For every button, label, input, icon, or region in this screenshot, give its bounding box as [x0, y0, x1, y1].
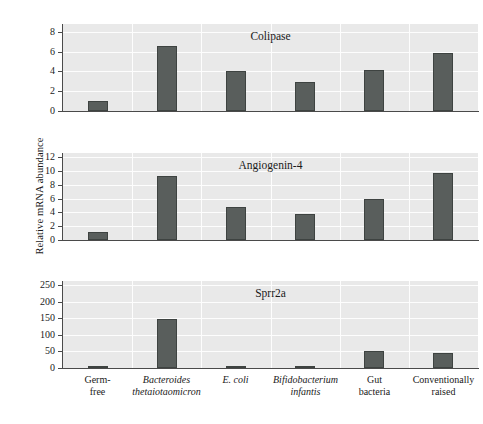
category-label-line: thetaiotaomicron [124, 386, 209, 398]
y-axis-tick [58, 318, 62, 319]
category-label-line: raised [401, 386, 483, 398]
panel-title: Sprr2a [63, 287, 478, 300]
category-label-line: Conventionally [401, 374, 483, 386]
y-axis-tick [58, 285, 62, 286]
x-axis-category-label: Conventionallyraised [401, 374, 483, 397]
y-axis-tick-label: 150 [23, 313, 55, 323]
figure-bar-chart-panels: Relative mRNA abundance 02468Colipase 02… [0, 0, 483, 424]
y-axis-tick-label: 0 [23, 363, 55, 373]
y-axis-tick-label: 200 [23, 297, 55, 307]
bar [433, 353, 453, 368]
y-axis-tick [58, 368, 62, 369]
bar [364, 351, 384, 368]
y-axis-tick [58, 302, 62, 303]
y-axis-tick-label: 100 [23, 330, 55, 340]
x-axis-line [62, 368, 479, 369]
y-axis-tick [58, 335, 62, 336]
y-axis-tick-label: 50 [23, 346, 55, 356]
y-axis-tick [58, 351, 62, 352]
bar [157, 319, 177, 368]
y-axis-tick-label: 250 [23, 280, 55, 290]
panel-sprr2a: 050100150200250Sprr2a [0, 0, 483, 424]
